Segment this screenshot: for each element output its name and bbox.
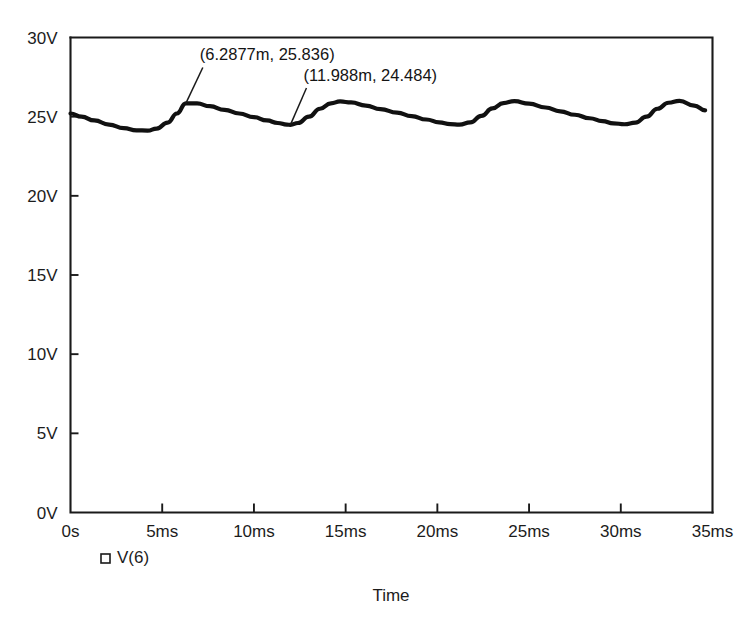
- annotation-label-1: (6.2877m, 25.836): [200, 45, 335, 63]
- y-tick-label: 15V: [27, 266, 58, 285]
- x-tick-label: 15ms: [325, 522, 367, 541]
- axis-frame: [71, 38, 713, 513]
- x-tick-label: 0s: [62, 522, 80, 541]
- x-tick-label: 20ms: [417, 522, 459, 541]
- legend-marker: [101, 554, 110, 563]
- chart-canvas: 0V5V10V15V20V25V30V0s5ms10ms15ms20ms25ms…: [0, 0, 747, 632]
- waveform-plot: 0V5V10V15V20V25V30V0s5ms10ms15ms20ms25ms…: [0, 0, 747, 632]
- x-tick-label: 25ms: [508, 522, 550, 541]
- x-tick-label: 35ms: [692, 522, 734, 541]
- y-tick-label: 20V: [27, 187, 58, 206]
- y-tick-label: 0V: [37, 504, 58, 523]
- y-tick-label: 30V: [27, 29, 58, 48]
- x-axis-title: Time: [372, 586, 409, 605]
- y-tick-label: 25V: [27, 108, 58, 127]
- annotation-label-2: (11.988m, 24.484): [303, 66, 437, 84]
- annotation-leader-1: [186, 67, 203, 103]
- plot-border: [71, 38, 713, 513]
- x-tick-label: 5ms: [146, 522, 178, 541]
- x-tick-label: 30ms: [600, 522, 642, 541]
- y-tick-label: 5V: [37, 424, 58, 443]
- y-tick-label: 10V: [27, 345, 58, 364]
- legend-label[interactable]: V(6): [117, 548, 149, 567]
- data-trace-V6: [71, 101, 706, 131]
- x-tick-label: 10ms: [233, 522, 275, 541]
